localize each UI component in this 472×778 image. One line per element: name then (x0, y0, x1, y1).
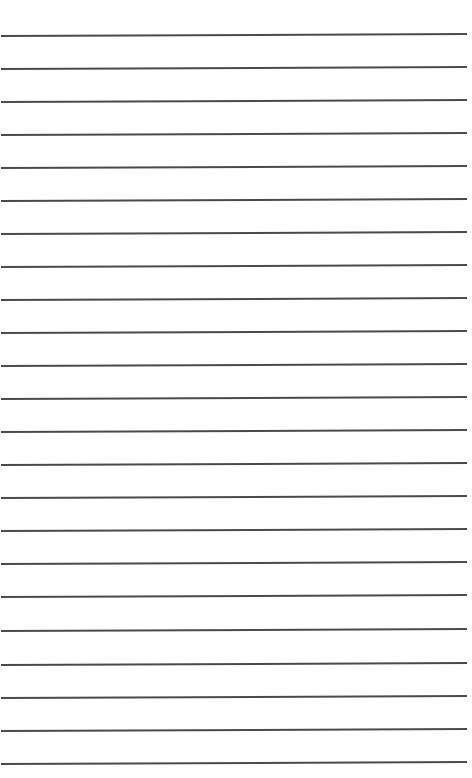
ruled-line (1, 761, 467, 765)
lined-paper-sheet (0, 0, 472, 778)
ruled-line (1, 363, 467, 367)
ruled-line (1, 198, 467, 202)
ruled-line (1, 99, 467, 103)
ruled-line (1, 495, 467, 499)
ruled-line (1, 662, 467, 666)
ruled-line (1, 528, 467, 532)
ruled-line (1, 231, 467, 235)
ruled-line (1, 695, 467, 699)
ruled-line (1, 396, 467, 400)
ruled-line (1, 429, 467, 433)
ruled-line (1, 132, 467, 136)
ruled-line (1, 462, 467, 466)
ruled-line (1, 165, 467, 169)
ruled-line (1, 561, 467, 565)
ruled-line (1, 264, 467, 268)
ruled-line (1, 66, 467, 70)
ruled-line (1, 594, 467, 598)
ruled-line (1, 297, 467, 301)
ruled-line (1, 728, 467, 732)
ruled-line (1, 628, 467, 632)
ruled-line (1, 330, 467, 334)
ruled-line (1, 33, 467, 37)
